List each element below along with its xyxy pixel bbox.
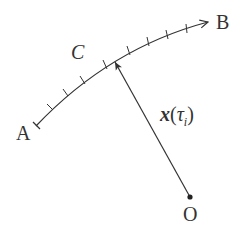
vector-symbol: x (160, 103, 170, 125)
vector-tau: τ (177, 103, 184, 125)
label-point-b: B (216, 12, 229, 32)
label-point-a: A (16, 123, 30, 143)
tick-mark (47, 104, 53, 110)
tick-mark (80, 76, 85, 84)
curve-tick-marks (47, 24, 187, 110)
label-curve-c: C (71, 42, 84, 62)
tick-mark (63, 89, 68, 96)
label-origin-o: O (183, 204, 197, 224)
origin-dot (187, 194, 192, 199)
position-vector-arrow (115, 62, 190, 197)
tick-mark (186, 24, 187, 33)
tick-mark (166, 30, 168, 39)
label-position-vector: x(τi) (160, 104, 194, 128)
diagram-canvas (0, 0, 237, 230)
vector-paren-close: ) (187, 103, 194, 125)
vector-paren-open: ( (170, 103, 177, 125)
